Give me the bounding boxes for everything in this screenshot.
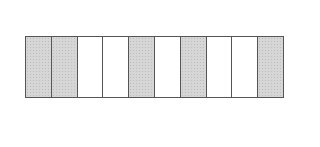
unshaded-cell [207, 37, 233, 97]
shaded-cell [52, 37, 78, 97]
shaded-cell [181, 37, 207, 97]
unshaded-cell [103, 37, 129, 97]
shaded-cell [129, 37, 155, 97]
unshaded-cell [78, 37, 104, 97]
shaded-cell [26, 37, 52, 97]
unshaded-cell [232, 37, 258, 97]
shaded-cell [258, 37, 283, 97]
unshaded-cell [155, 37, 181, 97]
fraction-strip [25, 36, 284, 98]
